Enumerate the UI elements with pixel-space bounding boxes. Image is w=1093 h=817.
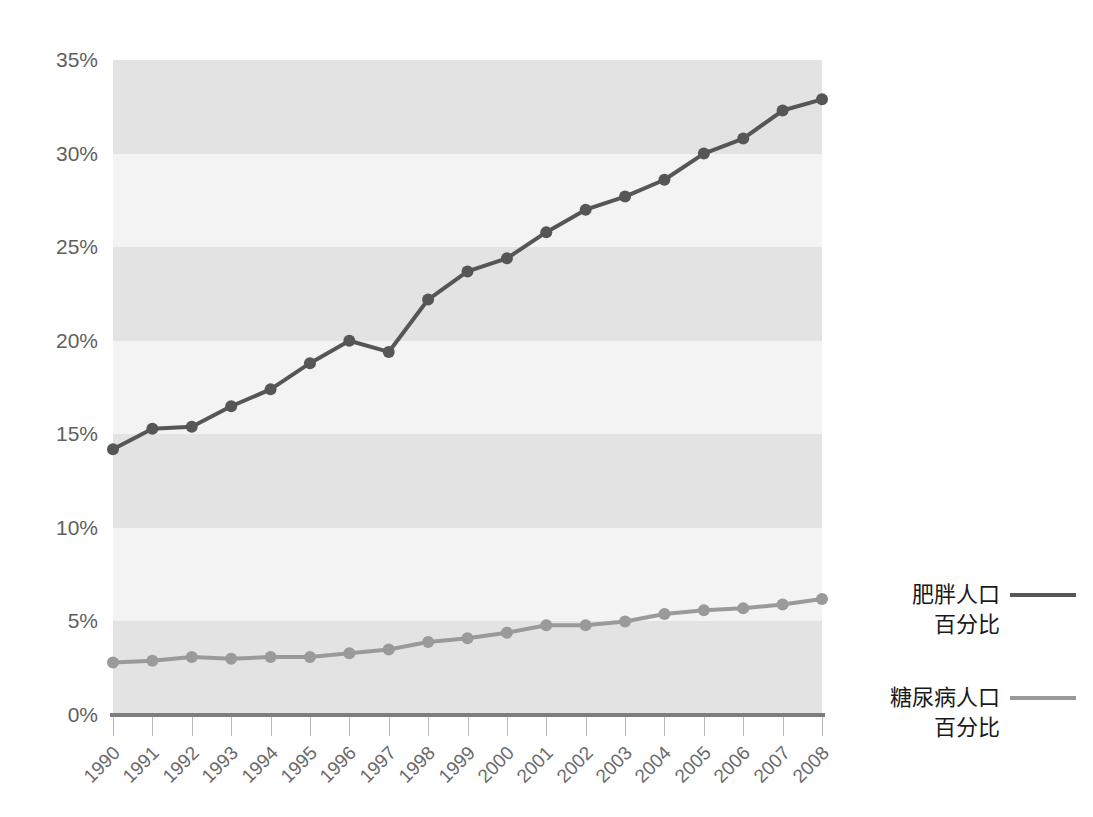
legend-label-line1: 糖尿病人口 (890, 683, 1000, 713)
data-point[interactable] (107, 657, 119, 669)
legend-entry[interactable]: 糖尿病人口百分比 (846, 683, 1076, 742)
x-axis-tick (546, 717, 547, 736)
data-point[interactable] (698, 604, 710, 616)
data-point[interactable] (146, 423, 158, 435)
legend-entry[interactable]: 肥胖人口百分比 (846, 580, 1076, 639)
x-axis-tick-label: 2006 (710, 742, 755, 787)
x-axis-tick (271, 717, 272, 736)
data-point[interactable] (265, 651, 277, 663)
x-axis-tick (310, 717, 311, 736)
x-axis-tick (507, 717, 508, 736)
data-point[interactable] (225, 400, 237, 412)
x-axis-tick-label: 2000 (473, 742, 518, 787)
data-point[interactable] (737, 133, 749, 145)
x-axis-tick-label: 1992 (158, 742, 203, 787)
data-point[interactable] (777, 599, 789, 611)
y-axis-tick-label: 5% (68, 609, 98, 633)
x-axis-tick (389, 717, 390, 736)
x-axis-tick-label: 1998 (394, 742, 439, 787)
x-axis-tick-label: 1995 (276, 742, 321, 787)
data-point[interactable] (186, 421, 198, 433)
data-point[interactable] (422, 294, 434, 306)
y-axis-tick-label: 25% (56, 235, 98, 259)
data-point[interactable] (580, 619, 592, 631)
data-point[interactable] (737, 602, 749, 614)
data-point[interactable] (816, 93, 828, 105)
x-axis-tick-label: 2005 (670, 742, 715, 787)
data-point[interactable] (658, 174, 670, 186)
plot-area (113, 60, 822, 715)
legend-color-swatch (1010, 593, 1076, 597)
data-point[interactable] (304, 651, 316, 663)
x-axis-tick-label: 1991 (119, 742, 164, 787)
x-axis-tick (783, 717, 784, 736)
x-axis-tick-label: 1993 (198, 742, 243, 787)
x-axis-tick (664, 717, 665, 736)
data-point[interactable] (816, 593, 828, 605)
data-point[interactable] (225, 653, 237, 665)
x-axis-tick-label: 1999 (434, 742, 479, 787)
data-point[interactable] (343, 647, 355, 659)
data-point[interactable] (540, 619, 552, 631)
y-axis-tick-label: 20% (56, 329, 98, 353)
data-point[interactable] (383, 644, 395, 656)
series-canvas (113, 60, 822, 715)
data-point[interactable] (501, 252, 513, 264)
x-axis-tick-label: 1997 (355, 742, 400, 787)
y-axis-tick-label: 30% (56, 142, 98, 166)
y-axis-labels: 35%30%25%20%15%10%5%0% (20, 0, 98, 817)
x-axis-tick (428, 717, 429, 736)
y-axis-tick-label: 35% (56, 48, 98, 72)
x-axis-tick-label: 2004 (631, 742, 676, 787)
x-axis-tick (743, 717, 744, 736)
x-axis-tick-label: 2008 (788, 742, 833, 787)
legend-label-line2: 百分比 (846, 713, 1076, 743)
data-point[interactable] (658, 608, 670, 620)
x-axis-tick (231, 717, 232, 736)
data-point[interactable] (343, 335, 355, 347)
x-axis-tick-label: 2001 (513, 742, 558, 787)
data-point[interactable] (186, 651, 198, 663)
data-point[interactable] (462, 632, 474, 644)
data-point[interactable] (107, 443, 119, 455)
data-point[interactable] (462, 265, 474, 277)
legend-row: 肥胖人口 (846, 580, 1076, 610)
legend-label-line2: 百分比 (846, 610, 1076, 640)
x-axis-tick (152, 717, 153, 736)
data-point[interactable] (619, 615, 631, 627)
y-axis-tick-label: 15% (56, 422, 98, 446)
x-axis-tick (192, 717, 193, 736)
data-point[interactable] (422, 636, 434, 648)
x-axis-tick-label: 2007 (749, 742, 794, 787)
data-point[interactable] (580, 204, 592, 216)
chart-legend: 肥胖人口百分比糖尿病人口百分比 (846, 580, 1076, 767)
data-point[interactable] (383, 346, 395, 358)
legend-label-line1: 肥胖人口 (912, 580, 1000, 610)
data-point[interactable] (540, 226, 552, 238)
line-chart: 35%30%25%20%15%10%5%0% 19901991199219931… (0, 0, 1093, 817)
data-point[interactable] (304, 357, 316, 369)
x-axis-tick-label: 1994 (237, 742, 282, 787)
legend-row: 糖尿病人口 (846, 683, 1076, 713)
series-line (113, 599, 822, 663)
x-axis-tick (625, 717, 626, 736)
series-2 (107, 593, 828, 669)
x-axis-tick (822, 717, 823, 736)
x-axis-tick-label: 2002 (552, 742, 597, 787)
x-axis-tick-label: 1996 (316, 742, 361, 787)
x-axis-tick (113, 717, 114, 736)
x-axis-tick (349, 717, 350, 736)
x-axis-tick (468, 717, 469, 736)
legend-color-swatch (1010, 696, 1076, 700)
data-point[interactable] (777, 105, 789, 117)
x-axis-tick (704, 717, 705, 736)
x-axis-tick (586, 717, 587, 736)
x-axis-tick-label: 2003 (591, 742, 636, 787)
data-point[interactable] (619, 191, 631, 203)
y-axis-tick-label: 10% (56, 516, 98, 540)
data-point[interactable] (698, 148, 710, 160)
series-1 (107, 93, 828, 455)
data-point[interactable] (265, 383, 277, 395)
data-point[interactable] (146, 655, 158, 667)
data-point[interactable] (501, 627, 513, 639)
